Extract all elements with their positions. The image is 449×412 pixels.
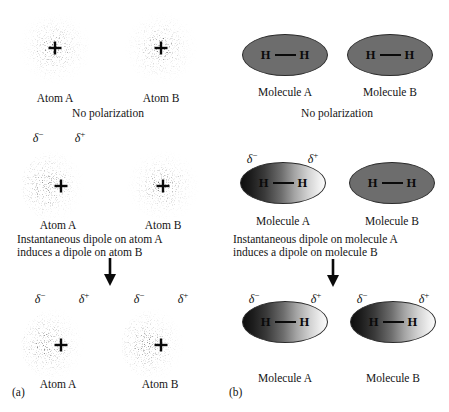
bond-line bbox=[380, 54, 401, 56]
atom-b-row2-cloud bbox=[124, 147, 202, 225]
atom-b-row1-label: Atom B bbox=[143, 92, 180, 105]
panel-b-row2-caption-line2: induces a dipole on molecule B bbox=[233, 246, 378, 260]
molecule-a-row3-label: Molecule A bbox=[258, 372, 312, 385]
hydrogen-atom-right: H bbox=[408, 316, 418, 329]
molecule-a-row1-label: Molecule A bbox=[258, 86, 312, 99]
atom-b-row3-cloud bbox=[121, 306, 199, 384]
atom-b-row3-charge-positive: δ+ bbox=[178, 292, 189, 307]
down-arrow-icon-panel-a bbox=[103, 258, 117, 286]
atom-b-row2-label: Atom B bbox=[145, 219, 182, 232]
charge-sign: + bbox=[316, 290, 321, 300]
atom-b-row3-charge-negative: δ− bbox=[134, 292, 145, 307]
hydrogen-atom-right: H bbox=[300, 49, 310, 62]
atom-a-row2-charge-negative: δ− bbox=[33, 131, 44, 146]
bond-line bbox=[273, 182, 294, 184]
panel-a-atoms: Atom A Atom B No polarization δ− δ+ bbox=[0, 0, 225, 412]
charge-sign: − bbox=[254, 290, 259, 300]
charge-sign: + bbox=[183, 290, 188, 300]
charge-sign: + bbox=[313, 150, 318, 160]
hydrogen-atom-left: H bbox=[259, 177, 269, 190]
panel-a-row1-caption: No polarization bbox=[72, 107, 144, 120]
molecule-b-row3-formula: H H bbox=[350, 301, 436, 343]
panel-b-row2-caption-line1: Instantaneous dipole on molecule A bbox=[233, 233, 398, 247]
atom-a-row3-charge-positive: δ+ bbox=[79, 292, 90, 307]
hydrogen-atom-right: H bbox=[298, 177, 308, 190]
hydrogen-atom-right: H bbox=[407, 177, 417, 190]
hydrogen-atom-left: H bbox=[261, 49, 271, 62]
atom-a-row3-cloud bbox=[21, 306, 99, 384]
bond-line bbox=[382, 182, 403, 184]
molecule-b-row1: H H bbox=[347, 34, 433, 76]
charge-sign: − bbox=[38, 129, 43, 139]
charge-sign: + bbox=[424, 290, 429, 300]
molecule-a-row2-formula: H H bbox=[240, 162, 326, 204]
hydrogen-atom-left: H bbox=[368, 177, 378, 190]
atom-a-row2-label: Atom A bbox=[40, 219, 77, 232]
hydrogen-atom-left: H bbox=[369, 316, 379, 329]
dispersion-forces-figure: Atom A Atom B No polarization δ− δ+ bbox=[0, 0, 449, 412]
atom-b-row3-label: Atom B bbox=[142, 378, 179, 391]
charge-sign: − bbox=[139, 290, 144, 300]
charge-sign: − bbox=[40, 290, 45, 300]
atom-a-row2-cloud bbox=[21, 147, 99, 225]
atom-a-row1-cloud bbox=[16, 9, 94, 87]
panel-b-row1-caption: No polarization bbox=[301, 107, 373, 120]
molecule-b-row1-label: Molecule B bbox=[363, 86, 417, 99]
panel-a-row2-caption-line1: Instantaneous dipole on atom A bbox=[17, 233, 163, 247]
molecule-a-row1-formula: H H bbox=[242, 34, 328, 76]
molecule-b-row2: H H bbox=[349, 162, 435, 204]
panel-b-molecules: H H H H Molecule A Molecule B No polariz… bbox=[225, 0, 449, 412]
molecule-a-row2: H H bbox=[240, 162, 326, 204]
molecule-a-row2-label: Molecule A bbox=[256, 215, 310, 228]
molecule-a-row3-formula: H H bbox=[242, 301, 328, 343]
bond-line bbox=[275, 54, 296, 56]
atom-b-row1-cloud bbox=[122, 9, 200, 87]
bond-line bbox=[275, 321, 296, 323]
atom-a-row3-label: Atom A bbox=[40, 378, 77, 391]
atom-a-row2-charge-positive: δ+ bbox=[75, 131, 86, 146]
charge-sign: + bbox=[84, 290, 89, 300]
molecule-b-row2-formula: H H bbox=[349, 162, 435, 204]
bond-line bbox=[383, 321, 404, 323]
panel-b-label: (b) bbox=[229, 386, 242, 398]
charge-sign: − bbox=[362, 290, 367, 300]
hydrogen-atom-right: H bbox=[300, 316, 310, 329]
panel-a-row2-caption-line2: induces a dipole on atom B bbox=[17, 246, 143, 260]
charge-sign: + bbox=[80, 129, 85, 139]
molecule-b-row3-label: Molecule B bbox=[366, 372, 420, 385]
atom-a-row3-charge-negative: δ− bbox=[35, 292, 46, 307]
hydrogen-atom-left: H bbox=[261, 316, 271, 329]
panel-a-label: (a) bbox=[12, 386, 25, 398]
hydrogen-atom-right: H bbox=[405, 49, 415, 62]
molecule-a-row3: H H bbox=[242, 301, 328, 343]
hydrogen-atom-left: H bbox=[366, 49, 376, 62]
molecule-b-row1-formula: H H bbox=[347, 34, 433, 76]
molecule-b-row2-label: Molecule B bbox=[365, 215, 419, 228]
charge-sign: − bbox=[252, 150, 257, 160]
down-arrow-icon-panel-b bbox=[326, 259, 340, 287]
molecule-b-row3: H H bbox=[350, 301, 436, 343]
atom-a-row1-label: Atom A bbox=[37, 92, 74, 105]
molecule-a-row1: H H bbox=[242, 34, 328, 76]
